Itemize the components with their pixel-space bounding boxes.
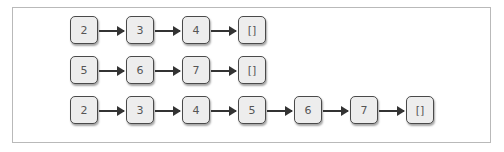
list-node: 2	[70, 96, 98, 124]
arrow-right-icon	[155, 70, 180, 72]
list-node: 6	[126, 56, 154, 84]
arrow-right-icon	[211, 110, 236, 112]
arrow-right-icon	[211, 70, 236, 72]
arrow-right-icon	[99, 70, 124, 72]
list-node: 6	[294, 96, 322, 124]
arrow-right-icon	[211, 30, 236, 32]
list-row-list-a: 234[]	[0, 16, 504, 46]
list-node: 4	[182, 16, 210, 44]
list-node: 4	[182, 96, 210, 124]
empty-list-node: []	[238, 56, 266, 84]
list-node: 3	[126, 16, 154, 44]
list-node: 3	[126, 96, 154, 124]
arrow-right-icon	[99, 110, 124, 112]
list-node: 5	[70, 56, 98, 84]
arrow-right-icon	[155, 110, 180, 112]
arrow-right-icon	[155, 30, 180, 32]
list-node: 5	[238, 96, 266, 124]
empty-list-node: []	[238, 16, 266, 44]
arrow-right-icon	[267, 110, 292, 112]
arrow-right-icon	[99, 30, 124, 32]
list-node: 7	[182, 56, 210, 84]
list-node: 2	[70, 16, 98, 44]
list-row-list-b: 567[]	[0, 56, 504, 86]
arrow-right-icon	[379, 110, 404, 112]
list-node: 7	[350, 96, 378, 124]
empty-list-node: []	[406, 96, 434, 124]
arrow-right-icon	[323, 110, 348, 112]
list-row-list-concat: 234567[]	[0, 96, 504, 126]
